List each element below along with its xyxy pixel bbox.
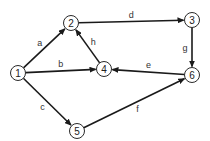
edge-label-a: a <box>37 38 42 48</box>
node-5: 5 <box>70 124 85 139</box>
edge-c <box>23 78 71 125</box>
node-6: 6 <box>185 68 200 83</box>
edge-label-b: b <box>58 59 63 69</box>
node-3: 3 <box>185 13 200 28</box>
edge-label-d: d <box>129 10 134 20</box>
edge-h <box>76 30 100 63</box>
node-2: 2 <box>64 16 79 31</box>
edge-label-c: c <box>40 102 45 112</box>
node-4: 4 <box>97 62 112 77</box>
node-label: 2 <box>68 18 74 29</box>
edge-b <box>25 69 95 72</box>
edge-f <box>84 79 185 128</box>
node-label: 3 <box>189 15 195 26</box>
edge-e <box>112 70 184 75</box>
node-label: 4 <box>101 64 107 75</box>
node-label: 5 <box>74 126 80 137</box>
edge-d <box>78 20 183 23</box>
edge-label-e: e <box>146 60 151 70</box>
edge-label-f: f <box>136 104 139 114</box>
node-1: 1 <box>11 66 26 81</box>
graph-diagram: abcdefgh 123456 <box>0 0 210 141</box>
edge-label-h: h <box>91 37 96 47</box>
node-label: 6 <box>189 70 195 81</box>
edge-label-g: g <box>182 43 187 53</box>
node-label: 1 <box>15 68 21 79</box>
